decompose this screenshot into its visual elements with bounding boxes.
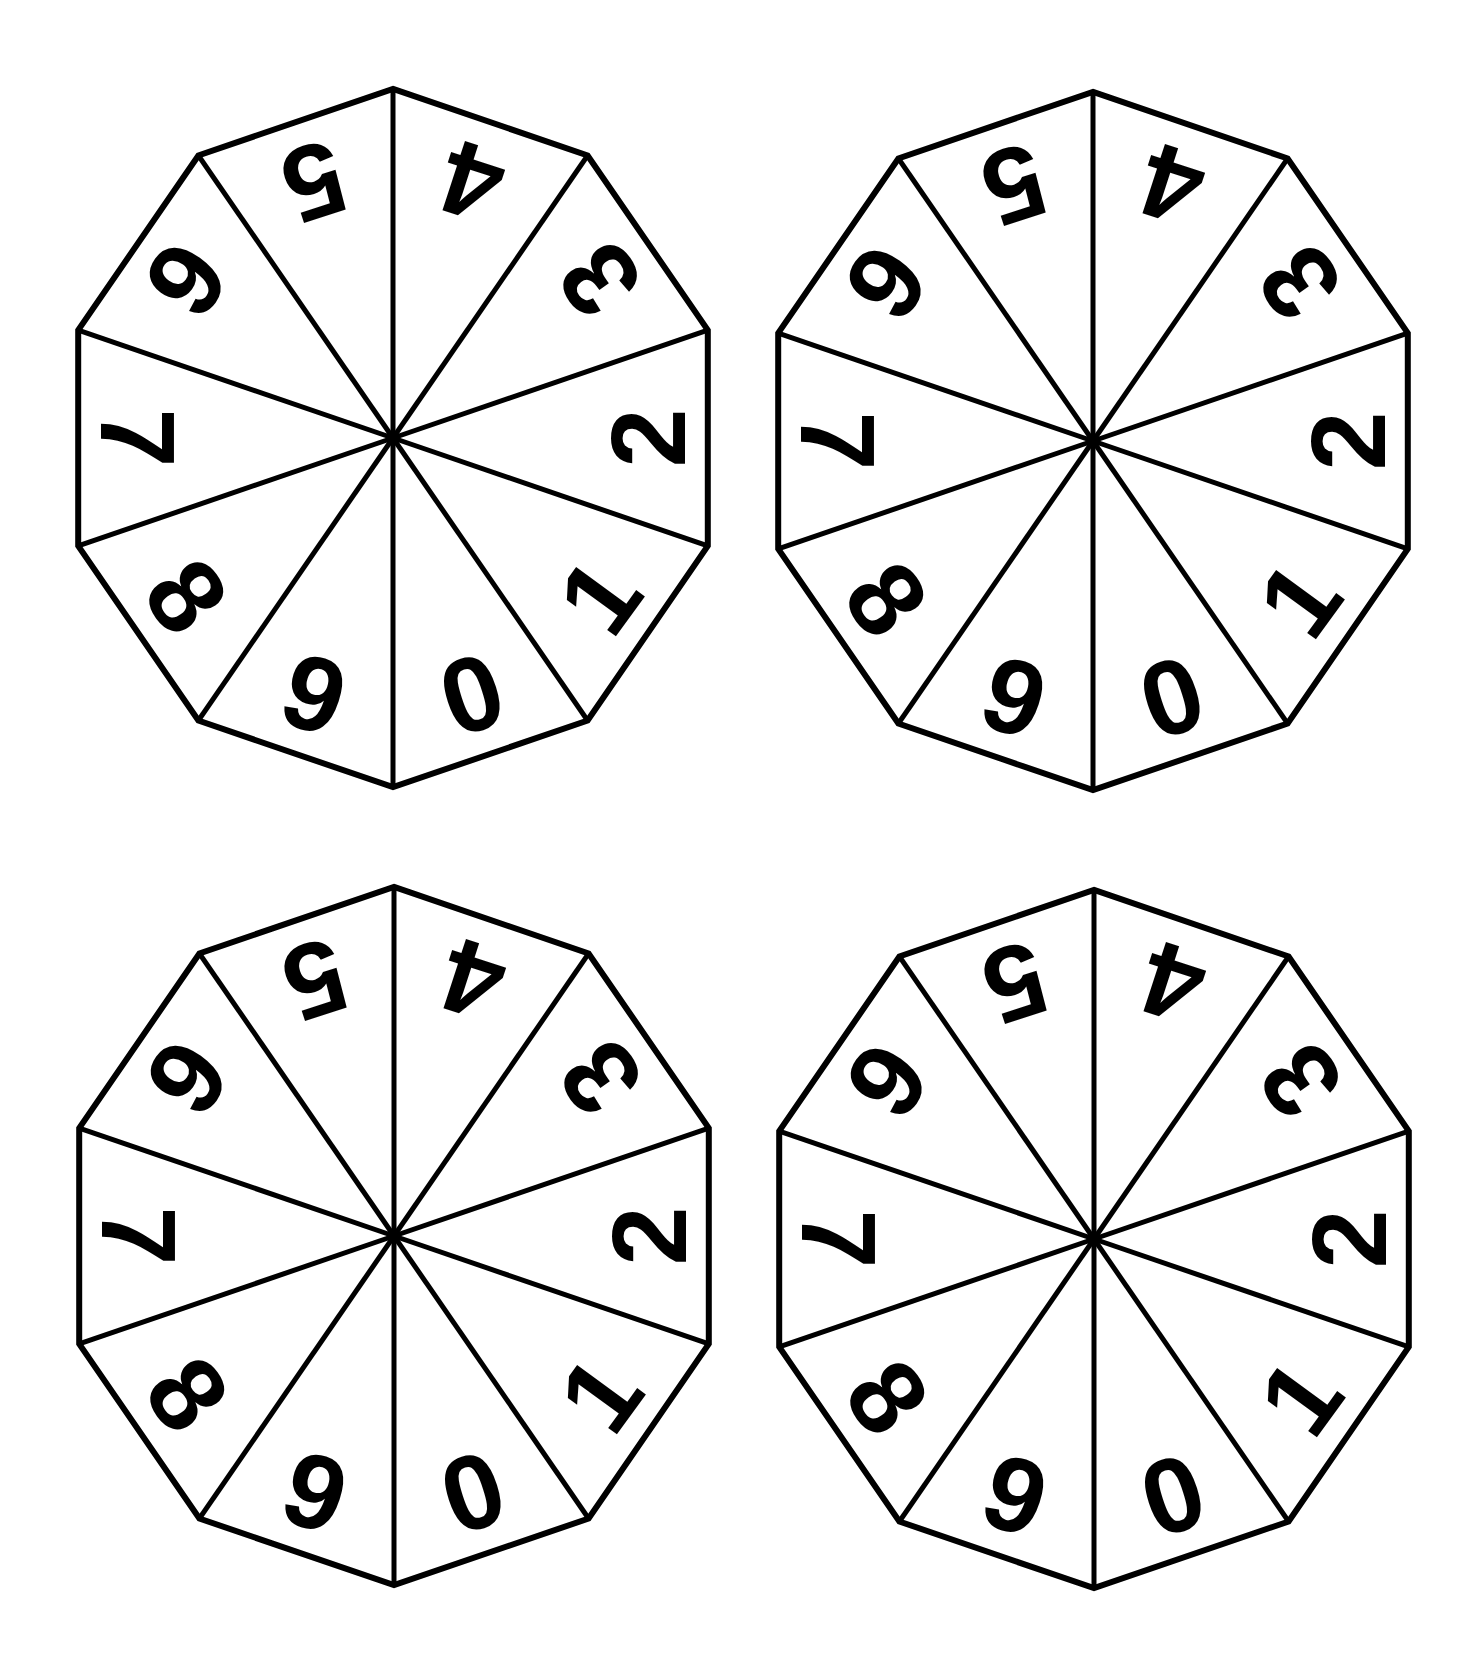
spinner-top-right: 4321098765 xyxy=(693,41,1457,841)
page-title: NUMBERS 0-9 xyxy=(0,0,1457,6)
spinner-digit: 7 xyxy=(79,409,197,468)
spinner-digit: 2 xyxy=(1289,412,1407,471)
spinner-digit: 2 xyxy=(1290,1210,1408,1269)
spinner-digit: 2 xyxy=(590,1207,708,1266)
spinner-digit: 2 xyxy=(589,409,707,468)
spinner-digit: 7 xyxy=(779,412,897,471)
spinner-digit: 7 xyxy=(80,1207,198,1266)
spinner-top-left: 4321098765 xyxy=(0,38,793,838)
spinner-bottom-right: 4321098765 xyxy=(694,839,1457,1639)
spinner-digit: 7 xyxy=(780,1210,898,1269)
spinner-bottom-left: 4321098765 xyxy=(0,836,794,1636)
